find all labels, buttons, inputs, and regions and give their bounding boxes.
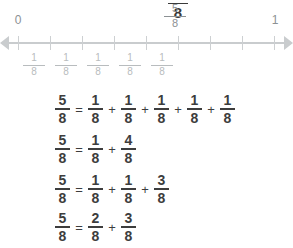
fraction-denominator: 8 xyxy=(59,191,67,206)
plus-sign: + xyxy=(202,102,220,117)
number-line-section: 0 1 5 8 1 8 1 xyxy=(0,0,293,90)
number-line-axis xyxy=(0,36,293,50)
fraction-denominator: 8 xyxy=(92,191,100,206)
fraction: 28 xyxy=(88,211,103,244)
fraction-denominator: 8 xyxy=(92,229,100,244)
fraction-numerator: 5 xyxy=(59,211,67,226)
fraction-numerator: 1 xyxy=(125,93,133,108)
fraction-term: 38 xyxy=(154,173,169,206)
plus-sign: + xyxy=(136,102,154,117)
fraction: 58 xyxy=(55,173,70,206)
fraction-term: 18 xyxy=(88,93,103,126)
equation-1: 58=18+18+18+18+18 xyxy=(55,92,235,126)
fraction-term: 18 xyxy=(88,173,103,206)
fraction-term: 58 xyxy=(55,211,70,244)
equals-sign: = xyxy=(70,220,88,235)
fraction: 18 xyxy=(187,93,202,126)
unit-fraction-numerator: 1 xyxy=(127,53,133,64)
fraction-denominator: 8 xyxy=(191,111,199,126)
fraction-denominator: 8 xyxy=(59,151,67,166)
fraction-denominator: 8 xyxy=(158,191,166,206)
plus-sign: + xyxy=(136,182,154,197)
fraction-denominator: 8 xyxy=(59,229,67,244)
fraction-numerator: 4 xyxy=(125,133,133,148)
fraction: 18 xyxy=(88,133,103,166)
fraction: 58 xyxy=(55,93,70,126)
fraction-numerator: 2 xyxy=(92,211,100,226)
axis-tick xyxy=(114,36,115,50)
worksheet-page: 5 8 0 1 5 8 1 xyxy=(0,0,293,248)
fraction-denominator: 8 xyxy=(125,111,133,126)
fraction: 58 xyxy=(55,211,70,244)
fraction-numerator: 5 xyxy=(59,93,67,108)
fraction: 48 xyxy=(121,133,136,166)
fraction-term: 18 xyxy=(88,133,103,166)
axis-tick xyxy=(210,36,211,50)
fraction-denominator: 8 xyxy=(125,151,133,166)
number-line-end-label: 1 xyxy=(265,13,285,27)
fraction-term: 18 xyxy=(121,93,136,126)
axis-right-arrow-icon xyxy=(284,36,293,50)
fraction-term: 28 xyxy=(88,211,103,244)
fraction-numerator: 1 xyxy=(191,93,199,108)
marker-denominator: 8 xyxy=(172,18,178,30)
equation-2: 58=18+48 xyxy=(55,132,136,166)
number-line-marker-fraction: 5 8 xyxy=(164,3,186,29)
fraction: 18 xyxy=(88,173,103,206)
fraction: 38 xyxy=(121,211,136,244)
unit-fraction-denominator: 8 xyxy=(127,67,133,78)
plus-sign: + xyxy=(103,102,121,117)
fraction-term: 18 xyxy=(187,93,202,126)
unit-fraction-denominator: 8 xyxy=(159,67,165,78)
unit-fraction-label: 1 8 xyxy=(87,53,109,77)
unit-fraction-label: 1 8 xyxy=(119,53,141,77)
fraction-denominator: 8 xyxy=(158,111,166,126)
fraction: 58 xyxy=(55,133,70,166)
fraction-numerator: 1 xyxy=(224,93,232,108)
fraction-numerator: 1 xyxy=(158,93,166,108)
fraction: 18 xyxy=(154,93,169,126)
unit-fraction-denominator: 8 xyxy=(63,67,69,78)
unit-fraction-label: 1 8 xyxy=(23,53,45,77)
fraction-numerator: 1 xyxy=(125,173,133,188)
fraction-term: 58 xyxy=(55,173,70,206)
unit-fraction-numerator: 1 xyxy=(159,53,165,64)
fraction: 18 xyxy=(121,173,136,206)
fraction-term: 18 xyxy=(154,93,169,126)
unit-fraction-numerator: 1 xyxy=(31,53,37,64)
fraction-term: 58 xyxy=(55,93,70,126)
number-line-start-label: 0 xyxy=(8,13,28,27)
fraction-denominator: 8 xyxy=(59,111,67,126)
axis-tick xyxy=(274,36,275,50)
unit-fraction-numerator: 1 xyxy=(95,53,101,64)
axis-tick xyxy=(18,36,19,50)
fraction: 18 xyxy=(88,93,103,126)
plus-sign: + xyxy=(103,182,121,197)
axis-tick xyxy=(50,36,51,50)
equation-3: 58=18+18+38 xyxy=(55,172,169,206)
fraction-numerator: 1 xyxy=(92,173,100,188)
fraction-denominator: 8 xyxy=(92,151,100,166)
plus-sign: + xyxy=(169,102,187,117)
unit-fraction-denominator: 8 xyxy=(31,67,37,78)
axis-tick xyxy=(82,36,83,50)
equals-sign: = xyxy=(70,102,88,117)
marker-numerator: 5 xyxy=(172,3,178,15)
fraction-denominator: 8 xyxy=(125,229,133,244)
fraction-term: 48 xyxy=(121,133,136,166)
fraction-term: 38 xyxy=(121,211,136,244)
equation-4: 58=28+38 xyxy=(55,210,136,244)
equals-sign: = xyxy=(70,142,88,157)
fraction-denominator: 8 xyxy=(125,191,133,206)
fraction-term: 18 xyxy=(121,173,136,206)
fraction: 38 xyxy=(154,173,169,206)
fraction-term: 18 xyxy=(220,93,235,126)
axis-tick xyxy=(242,36,243,50)
plus-sign: + xyxy=(103,220,121,235)
fraction-numerator: 1 xyxy=(92,93,100,108)
fraction-term: 58 xyxy=(55,133,70,166)
fraction-numerator: 5 xyxy=(59,173,67,188)
fraction-denominator: 8 xyxy=(224,111,232,126)
fraction-numerator: 1 xyxy=(92,133,100,148)
fraction-numerator: 5 xyxy=(59,133,67,148)
